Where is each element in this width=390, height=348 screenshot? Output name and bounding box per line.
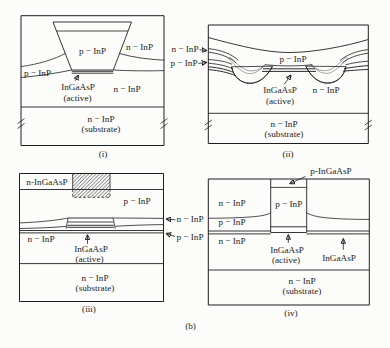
panel-i-active-sublabel: (active) xyxy=(63,93,91,103)
panel-i-mesa-label: p − InP xyxy=(79,46,106,56)
panel-i-left-band-label: p − InP xyxy=(24,68,51,78)
panel-iii-lower-double-line xyxy=(20,231,164,233)
panel-i-substrate-sublabel: (substrate) xyxy=(82,124,121,134)
panel-i-active-layer xyxy=(72,71,114,73)
panel-iv: p-InGaAsP n − InP p − InP n − InP p − In… xyxy=(208,166,369,317)
panel-iii-cap-layer-label: n-InGaAsP xyxy=(26,177,67,187)
figure-laser-structures: p − InP n − InP p − InP InGaAsP (active)… xyxy=(0,0,390,348)
panel-iii-right-outer-bottom-label: p − InP xyxy=(176,232,203,242)
panel-iv-right-layer-label: InGaAsP xyxy=(322,253,356,263)
panel-ii-active-arrow xyxy=(285,75,291,84)
panel-iii-right-outer-top-label: n − InP xyxy=(176,214,203,224)
panel-ii-left-outer-bottom-label: p − InP xyxy=(170,58,197,68)
panel-ii-channel-left xyxy=(229,57,273,83)
panel-ii-substrate-sublabel: (substrate) xyxy=(265,129,304,139)
panel-i: p − InP n − InP p − InP InGaAsP (active)… xyxy=(18,16,168,159)
panel-ii-left-outer-top-label: n − InP xyxy=(171,44,198,54)
figure-caption: (b) xyxy=(185,321,196,331)
panel-iii-upper-region-label: p − InP xyxy=(123,196,150,206)
figure-svg: p − InP n − InP p − InP InGaAsP (active)… xyxy=(0,0,390,348)
panel-ii-active-sublabel: (active) xyxy=(266,96,294,106)
panel-iv-right-boundary xyxy=(307,213,370,220)
panel-ii-top-region-label: p − InP xyxy=(279,54,306,64)
panel-iv-left-stack-bottom-label: n − InP xyxy=(218,236,245,246)
panel-ii-n-inp-arrow xyxy=(200,50,207,51)
panel-iii-diffusion-region xyxy=(73,174,110,198)
panel-iv-left-stack-mid-label: p − InP xyxy=(218,217,245,227)
panel-iii-left-layers xyxy=(20,218,69,229)
panel-iii-substrate-sublabel: (substrate) xyxy=(76,283,115,293)
panel-iii-active-label: InGaAsP xyxy=(74,244,108,254)
panel-iii-left-region-label: n − InP xyxy=(27,234,54,244)
panel-ii-substrate-label: n − InP xyxy=(270,119,297,129)
panel-iii-n-inp-arrow xyxy=(166,219,175,220)
panel-i-lower-right-label: n − InP xyxy=(113,84,140,94)
panel-ii-channel-right xyxy=(306,57,348,83)
panel-i-substrate-label: n − InP xyxy=(87,114,114,124)
panel-iii-p-inp-arrow xyxy=(166,234,175,237)
panel-iv-cap-arrow xyxy=(290,176,306,183)
panel-i-active-label: InGaAsP xyxy=(61,82,95,92)
panel-iii: n-InGaAsP p − InP n − InP InGaAsP (activ… xyxy=(20,174,204,314)
panel-iv-column-label: p − InP xyxy=(275,199,302,209)
panel-ii-active-label: InGaAsP xyxy=(263,85,297,95)
panel-iv-active-label: InGaAsP xyxy=(270,245,304,255)
panel-i-right-cladding-label: n − InP xyxy=(126,42,153,52)
panel-iv-substrate-sublabel: (substrate) xyxy=(283,286,322,296)
panel-ii-right-lower-label: n − InP xyxy=(312,85,339,95)
panel-iii-mesa xyxy=(66,218,115,229)
panel-ii-caption: (ii) xyxy=(282,149,293,159)
panel-iii-active-sublabel: (active) xyxy=(75,254,103,264)
panel-iii-right-layers xyxy=(113,218,164,226)
panel-i-active-arrow xyxy=(75,75,78,81)
panel-iii-caption: (iii) xyxy=(82,304,96,314)
panel-iv-substrate-label: n − InP xyxy=(288,276,315,286)
panel-iii-substrate-label: n − InP xyxy=(81,273,108,283)
panel-iv-active-sublabel: (active) xyxy=(272,255,300,265)
panel-ii-top-surface xyxy=(208,38,368,53)
panel-i-caption: (i) xyxy=(99,149,108,159)
panel-iv-left-stack-top-label: n − InP xyxy=(218,198,245,208)
panel-ii: n − InP p − InP p − InP InGaAsP (active)… xyxy=(170,25,371,159)
panel-ii-p-inp-arrow xyxy=(199,62,207,63)
panel-iv-caption: (iv) xyxy=(284,308,297,318)
panel-i-right-band xyxy=(113,54,164,71)
panel-iv-top-outer-label: p-InGaAsP xyxy=(310,166,351,176)
